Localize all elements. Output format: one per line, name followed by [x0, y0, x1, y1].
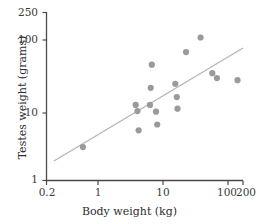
x-tick-label-0-2: 0.2	[31, 187, 63, 198]
data-point	[172, 81, 178, 87]
data-point	[214, 75, 220, 81]
x-axis-tick-marks	[47, 181, 244, 186]
data-point	[134, 108, 140, 114]
data-point	[133, 102, 139, 108]
x-tick-label-200: 200	[233, 187, 259, 198]
x-tick-label-10: 10	[149, 187, 177, 198]
data-point	[80, 144, 86, 150]
y-axis-title: Testes weight (grams)	[17, 18, 28, 178]
data-point	[174, 94, 180, 100]
data-point	[209, 70, 215, 76]
data-point	[174, 106, 180, 112]
data-point	[197, 34, 203, 40]
data-point	[154, 121, 160, 127]
y-tick-label-250: 250	[2, 7, 38, 18]
data-point	[153, 109, 159, 115]
data-point	[234, 77, 240, 83]
x-axis-title: Body weight (kg)	[0, 206, 259, 217]
data-point	[147, 102, 153, 108]
data-point	[183, 49, 189, 55]
x-tick-label-1: 1	[84, 187, 112, 198]
data-points	[80, 34, 241, 150]
axis-lines	[46, 12, 243, 181]
data-point	[149, 62, 155, 68]
data-point	[148, 85, 154, 91]
data-point	[136, 127, 142, 133]
scatter-plot-figure: 250 100 10 1 0.2 1 10 100 200 Body weigh…	[0, 0, 259, 224]
